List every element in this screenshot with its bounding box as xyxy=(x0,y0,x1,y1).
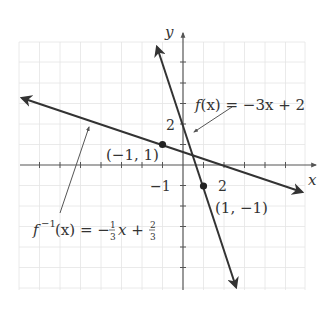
graph-canvas: y x −1 2 2 (−1, 1) (1, −1) f(x) = −3x + … xyxy=(0,0,335,311)
point-label-neg1-1: (−1, 1) xyxy=(106,146,159,164)
tick-label-x-neg1: −1 xyxy=(150,178,171,194)
svg-text:2: 2 xyxy=(150,220,156,230)
finv-equation-label: f −1 (x) = − 1 3 x + 2 3 xyxy=(32,218,156,242)
y-axis-label: y xyxy=(164,23,174,41)
point-label-1-neg1: (1, −1) xyxy=(215,199,268,217)
axes xyxy=(20,33,316,290)
svg-text:3: 3 xyxy=(150,232,156,242)
svg-text:1: 1 xyxy=(110,220,116,230)
tick-label-y-2: 2 xyxy=(166,117,175,133)
svg-text:x +: x + xyxy=(118,221,144,239)
finv-label-pointer xyxy=(60,127,89,213)
tick-label-x-2: 2 xyxy=(218,178,227,194)
point-1-neg1 xyxy=(200,182,207,189)
f-equation-label: f(x) = −3x + 2 xyxy=(194,96,305,114)
x-axis-label: x xyxy=(308,171,317,189)
svg-text:3: 3 xyxy=(110,232,116,242)
svg-text:−1: −1 xyxy=(41,218,56,229)
svg-text:(x) = −: (x) = − xyxy=(55,221,110,239)
point-neg1-1 xyxy=(159,141,166,148)
